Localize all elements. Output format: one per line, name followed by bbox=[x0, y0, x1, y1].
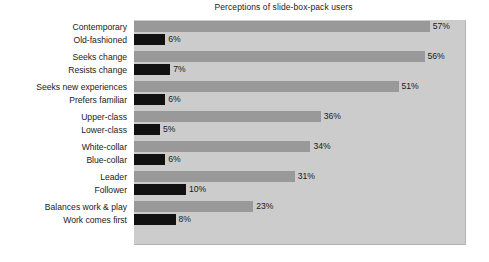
category-label: Contemporary bbox=[0, 21, 131, 32]
label-pair-group: LeaderFollower bbox=[0, 171, 131, 195]
bar bbox=[134, 94, 165, 105]
bar-value-label: 6% bbox=[165, 94, 180, 105]
label-pair-group: ContemporaryOld-fashioned bbox=[0, 21, 131, 45]
bar-row: 8% bbox=[134, 214, 465, 225]
bar-value-label: 57% bbox=[430, 21, 450, 32]
bar bbox=[134, 184, 186, 195]
bar-row: 5% bbox=[134, 124, 465, 135]
bar-value-label: 6% bbox=[165, 154, 180, 165]
bar-value-label: 23% bbox=[253, 201, 273, 212]
bar-value-label: 56% bbox=[425, 51, 445, 62]
bar bbox=[134, 81, 399, 92]
bar-value-label: 10% bbox=[186, 184, 206, 195]
bar bbox=[134, 64, 170, 75]
category-label: Upper-class bbox=[0, 111, 131, 122]
bar bbox=[134, 141, 310, 152]
label-pair-group: Seeks new experiencesPrefers familiar bbox=[0, 81, 131, 105]
label-pair-group: Seeks changeResists change bbox=[0, 51, 131, 75]
bar-pair-group: 36%5% bbox=[134, 111, 465, 135]
category-label: Balances work & play bbox=[0, 201, 131, 212]
bar-row: 6% bbox=[134, 154, 465, 165]
bar-row: 31% bbox=[134, 171, 465, 182]
bar-row: 51% bbox=[134, 81, 465, 92]
category-label: Seeks new experiences bbox=[0, 81, 131, 92]
category-label: White-collar bbox=[0, 141, 131, 152]
bar-pair-group: 57%6% bbox=[134, 21, 465, 45]
label-pair-group: Upper-classLower-class bbox=[0, 111, 131, 135]
bar-row: 57% bbox=[134, 21, 465, 32]
category-label: Work comes first bbox=[0, 214, 131, 225]
plot-area: 57%6%56%7%51%6%36%5%34%6%31%10%23%8% bbox=[134, 20, 466, 245]
bar-row: 6% bbox=[134, 34, 465, 45]
bar-value-label: 31% bbox=[295, 171, 315, 182]
bar-value-label: 5% bbox=[160, 124, 175, 135]
bar-row: 56% bbox=[134, 51, 465, 62]
category-label: Old-fashioned bbox=[0, 34, 131, 45]
bar-pair-group: 56%7% bbox=[134, 51, 465, 75]
category-label: Resists change bbox=[0, 64, 131, 75]
category-label: Leader bbox=[0, 171, 131, 182]
bar bbox=[134, 214, 176, 225]
bar bbox=[134, 21, 430, 32]
bar-pair-group: 23%8% bbox=[134, 201, 465, 225]
bar-row: 10% bbox=[134, 184, 465, 195]
category-label: Follower bbox=[0, 184, 131, 195]
category-label: Lower-class bbox=[0, 124, 131, 135]
bar-value-label: 6% bbox=[165, 34, 180, 45]
label-pair-group: Balances work & playWork comes first bbox=[0, 201, 131, 225]
bar bbox=[134, 201, 253, 212]
bar-pair-group: 31%10% bbox=[134, 171, 465, 195]
bar-pair-group: 51%6% bbox=[134, 81, 465, 105]
bar-value-label: 51% bbox=[399, 81, 419, 92]
bar-value-label: 34% bbox=[310, 141, 330, 152]
bar-row: 34% bbox=[134, 141, 465, 152]
bar bbox=[134, 171, 295, 182]
chart-container: Perceptions of slide-box-pack users Cont… bbox=[0, 0, 489, 262]
bar bbox=[134, 34, 165, 45]
bar-value-label: 8% bbox=[176, 214, 191, 225]
chart-title: Perceptions of slide-box-pack users bbox=[0, 2, 489, 12]
bar-row: 7% bbox=[134, 64, 465, 75]
category-label-column: ContemporaryOld-fashionedSeeks changeRes… bbox=[0, 20, 131, 245]
bar-value-label: 36% bbox=[321, 111, 341, 122]
bar-row: 6% bbox=[134, 94, 465, 105]
label-pair-group: White-collarBlue-collar bbox=[0, 141, 131, 165]
bar bbox=[134, 154, 165, 165]
category-label: Prefers familiar bbox=[0, 94, 131, 105]
bar bbox=[134, 111, 321, 122]
bar-pair-group: 34%6% bbox=[134, 141, 465, 165]
bar bbox=[134, 124, 160, 135]
category-label: Blue-collar bbox=[0, 154, 131, 165]
category-label: Seeks change bbox=[0, 51, 131, 62]
bar-row: 23% bbox=[134, 201, 465, 212]
bar-value-label: 7% bbox=[170, 64, 185, 75]
bar bbox=[134, 51, 425, 62]
bar-row: 36% bbox=[134, 111, 465, 122]
